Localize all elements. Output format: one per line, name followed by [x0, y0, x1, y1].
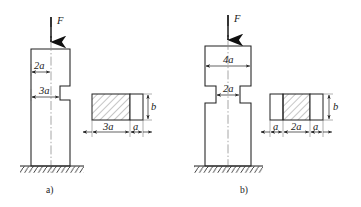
figure-a: F 2a 3a: [20, 15, 156, 196]
dimension-b-figure-b: [323, 94, 333, 120]
figure-b: F 4a 2a: [194, 13, 338, 196]
cross-section-b-plain-right: [310, 94, 323, 120]
cross-section-b-plain-left: [270, 94, 283, 120]
ground-support-b: [194, 166, 263, 173]
dimension-label-b-a: b: [151, 101, 156, 112]
dimension-label-a-left-section-b: a: [273, 121, 278, 132]
dimension-label-2a-section-b: 2a: [291, 121, 302, 132]
dimension-label-a-right-section-b: a: [313, 121, 318, 132]
cross-section-a: [92, 94, 143, 120]
force-label-a: F: [56, 15, 64, 26]
cross-section-b-hatched-region: [283, 94, 310, 120]
caption-figure-b: b): [240, 185, 248, 196]
figure-canvas: F 2a 3a: [0, 0, 361, 207]
cross-section-a-plain-region: [130, 94, 143, 120]
dimension-label-a-section-a: a: [133, 121, 138, 132]
cross-section-a-hatched-region: [92, 94, 130, 120]
dimension-label-2a-b: 2a: [223, 83, 234, 94]
dimension-label-b-b: b: [333, 101, 338, 112]
dimension-label-2a-a: 2a: [34, 60, 45, 71]
ground-support-a: [20, 166, 84, 173]
dimension-widths-figure-a: [83, 120, 152, 137]
dimension-label-3a-section-a: 3a: [102, 121, 114, 132]
dimension-label-3a-a: 3a: [38, 85, 50, 96]
cross-section-b: [270, 94, 323, 120]
force-label-b: F: [233, 13, 241, 24]
engineering-figure-page: F 2a 3a: [0, 0, 361, 207]
dimension-label-4a-b: 4a: [223, 54, 234, 65]
caption-figure-a: a): [46, 185, 53, 196]
